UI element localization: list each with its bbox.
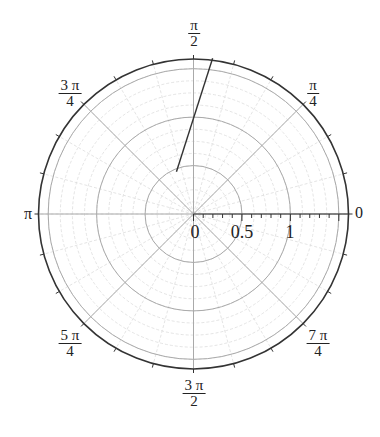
series-line [176,58,212,172]
polar-plot [0,0,380,437]
angle-label-7pi-4: 7 π 4 [307,328,330,359]
angle-label-3pi-4: 3 π 4 [59,78,82,109]
angle-label-5pi-4: 5 π 4 [59,328,82,359]
angle-label-pi: π [24,206,32,222]
angle-label-3pi-2: 3 π 2 [183,378,206,409]
angle-label-pi-4: π 4 [307,78,319,109]
angle-label-0: 0 [355,205,363,221]
angle-label-pi-2: π 2 [188,18,200,49]
data-series [176,58,212,172]
radial-label-0: 0 [191,223,200,241]
radial-label-0-5: 0.5 [231,223,254,241]
radial-label-1: 1 [286,223,295,241]
